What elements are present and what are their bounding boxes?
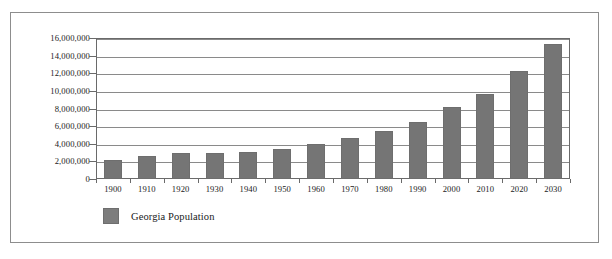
y-axis-tick-label: 16,000,000 xyxy=(6,34,90,43)
y-axis-tick-mark xyxy=(89,91,96,92)
chart-figure: 02,000,0004,000,0006,000,0008,000,00010,… xyxy=(0,0,612,259)
bar-series-georgia-population xyxy=(96,38,570,179)
y-axis-tick-mark xyxy=(89,126,96,127)
x-axis-tick-mark xyxy=(299,179,300,183)
bar-1980 xyxy=(375,131,393,179)
y-axis-labels: 02,000,0004,000,0006,000,0008,000,00010,… xyxy=(0,0,90,259)
y-axis-tick-label: 6,000,000 xyxy=(6,122,90,131)
x-axis-tick-mark xyxy=(536,179,537,183)
x-axis-tick-mark xyxy=(435,179,436,183)
bar-1940 xyxy=(239,152,257,179)
chart-legend: Georgia Population xyxy=(103,208,215,224)
y-axis-tick-label: 12,000,000 xyxy=(6,69,90,78)
x-axis-tick-mark xyxy=(265,179,266,183)
y-axis-tick-mark xyxy=(89,56,96,57)
bar-1990 xyxy=(409,122,427,179)
x-axis-tick-mark xyxy=(231,179,232,183)
y-axis-tick-label: 4,000,000 xyxy=(6,139,90,148)
legend-item-label: Georgia Population xyxy=(131,211,215,222)
y-axis-tick-label: 14,000,000 xyxy=(6,51,90,60)
x-axis-tick-mark xyxy=(96,179,97,183)
x-axis-tick-mark xyxy=(130,179,131,183)
bar-1920 xyxy=(172,153,190,179)
x-axis-tick-mark xyxy=(198,179,199,183)
legend-color-swatch xyxy=(103,208,119,224)
x-axis-tick-mark xyxy=(570,179,571,183)
bar-1900 xyxy=(104,160,122,179)
bar-2030 xyxy=(544,44,562,179)
x-axis-tick-mark xyxy=(502,179,503,183)
bar-1970 xyxy=(341,138,359,179)
x-axis-tick-mark xyxy=(468,179,469,183)
y-axis-tick-label: 10,000,000 xyxy=(6,87,90,96)
x-axis-tick-mark xyxy=(333,179,334,183)
y-axis-tick-label: 2,000,000 xyxy=(6,157,90,166)
y-axis-tick-mark xyxy=(89,161,96,162)
x-axis-tick-mark xyxy=(164,179,165,183)
y-axis-tick-mark xyxy=(89,109,96,110)
bar-1960 xyxy=(307,144,325,179)
bar-1910 xyxy=(138,156,156,179)
bar-2010 xyxy=(476,94,494,179)
bar-1930 xyxy=(206,153,224,179)
y-axis-tick-label: 8,000,000 xyxy=(6,104,90,113)
x-axis-tick-label: 2030 xyxy=(533,185,573,194)
x-axis-tick-mark xyxy=(367,179,368,183)
x-axis-tick-mark xyxy=(401,179,402,183)
y-axis-tick-mark xyxy=(89,144,96,145)
y-axis-tick-mark xyxy=(89,38,96,39)
y-axis-tick-mark xyxy=(89,179,96,180)
bar-1950 xyxy=(273,149,291,179)
x-axis-labels: 1900191019201930194019501960197019801990… xyxy=(96,179,570,205)
y-axis-tick-mark xyxy=(89,73,96,74)
bar-2020 xyxy=(510,71,528,179)
y-axis-tick-label: 0 xyxy=(6,175,90,184)
bar-2000 xyxy=(443,107,461,179)
